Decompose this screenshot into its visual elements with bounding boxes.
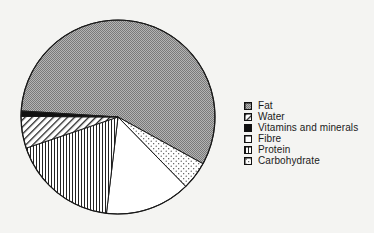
legend-item-carbohydrate: Carbohydrate: [244, 155, 358, 166]
legend-label: Protein: [258, 144, 290, 155]
legend: Fat Water Vitamins and minerals Fibre Pr…: [244, 100, 358, 166]
pie-slices: [21, 20, 215, 214]
fat-swatch-icon: [244, 102, 252, 110]
legend-label: Carbohydrate: [258, 155, 320, 166]
legend-label: Vitamins and minerals: [258, 122, 358, 133]
legend-item-fat: Fat: [244, 100, 358, 111]
legend-item-protein: Protein: [244, 144, 358, 155]
carbohydrate-swatch-icon: [244, 157, 252, 165]
pie-chart-figure: Fat Water Vitamins and minerals Fibre Pr…: [0, 0, 374, 233]
legend-label: Fat: [258, 100, 273, 111]
water-swatch-icon: [244, 113, 252, 121]
legend-item-vitamins-minerals: Vitamins and minerals: [244, 122, 358, 133]
protein-swatch-icon: [244, 146, 252, 154]
legend-item-fibre: Fibre: [244, 133, 358, 144]
legend-label: Fibre: [258, 133, 281, 144]
legend-label: Water: [258, 111, 285, 122]
legend-item-water: Water: [244, 111, 358, 122]
vitamins-swatch-icon: [244, 124, 252, 132]
fibre-swatch-icon: [244, 135, 252, 143]
